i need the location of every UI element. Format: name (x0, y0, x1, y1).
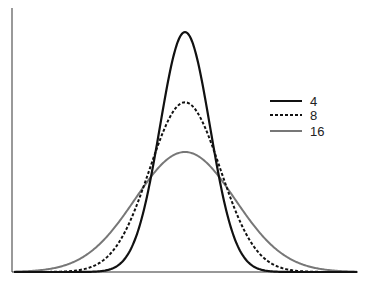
curve-series-8 (14, 102, 357, 272)
curve-series-16 (14, 152, 357, 272)
chart-canvas: 4 8 16 (0, 0, 365, 282)
legend: 4 8 16 (270, 94, 324, 139)
legend-label-16: 16 (310, 124, 324, 139)
legend-label-4: 4 (310, 94, 317, 109)
legend-label-8: 8 (310, 108, 317, 123)
